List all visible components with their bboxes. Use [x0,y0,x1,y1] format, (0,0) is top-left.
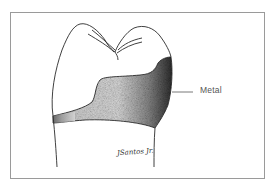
metal-region [53,57,172,128]
metal-label: Metal [200,85,222,95]
tooth-illustration [0,0,273,189]
